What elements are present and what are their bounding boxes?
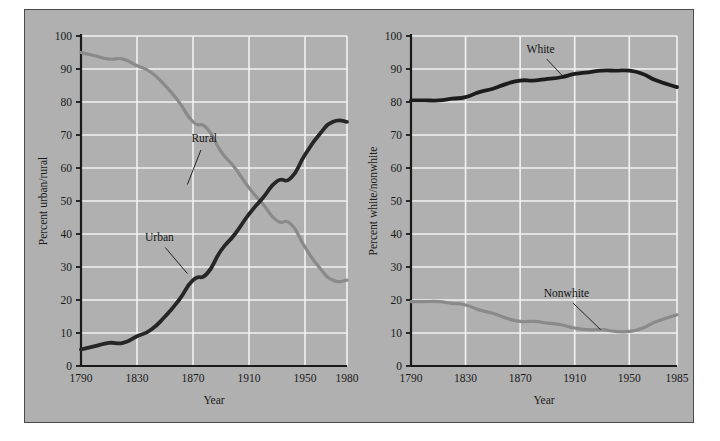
y-axis-title: Percent white/nonwhite [367,147,379,256]
y-tick-label: 10 [391,327,403,339]
x-tick-label: 1790 [400,372,423,384]
y-tick-label: 40 [61,228,73,240]
y-tick-label: 20 [391,294,403,306]
y-tick-label: 50 [391,195,403,207]
y-tick-label: 20 [61,294,73,306]
y-tick-label: 30 [61,261,73,273]
y-tick-label: 10 [61,327,73,339]
y-tick-label: 0 [396,360,402,372]
series-label-nonwhite: Nonwhite [544,287,589,299]
x-axis-title: Year [533,394,554,406]
x-tick-label: 1910 [238,372,261,384]
white-nonwhite-plot: 0102030405060708090100179018301870191019… [355,10,695,424]
x-tick-label: 1830 [126,372,149,384]
series-label-white: White [527,43,555,55]
y-tick-label: 60 [61,162,73,174]
y-tick-label: 90 [61,63,73,75]
y-axis: 0102030405060708090100 [55,30,81,372]
y-tick-label: 70 [391,129,403,141]
y-tick-label: 0 [66,360,72,372]
y-tick-label: 90 [391,63,403,75]
y-tick-label: 30 [391,261,403,273]
x-tick-label: 1950 [618,372,641,384]
x-tick-label: 1870 [509,372,532,384]
series-label-rural: Rural [191,132,217,144]
figure-canvas: 0102030405060708090100179018301870191019… [0,0,720,441]
x-tick-label: 1830 [454,372,477,384]
x-axis: 179018301870191019501985 [400,366,689,384]
y-tick-label: 80 [391,96,403,108]
y-tick-label: 40 [391,228,403,240]
chart-panel-white-nonwhite: 0102030405060708090100179018301870191019… [355,10,695,424]
x-tick-label: 1870 [182,372,205,384]
x-tick-label: 1790 [70,372,93,384]
y-tick-label: 50 [61,195,73,207]
x-axis-title: Year [203,394,224,406]
y-tick-label: 100 [385,30,403,42]
chart-panel-urban-rural: 0102030405060708090100179018301870191019… [25,10,365,424]
x-axis: 179018301870191019501980 [70,366,359,384]
x-tick-label: 1950 [294,372,317,384]
x-tick-label: 1985 [666,372,689,384]
figure-frame: 0102030405060708090100179018301870191019… [24,9,694,423]
y-tick-label: 100 [55,30,73,42]
urban-rural-plot: 0102030405060708090100179018301870191019… [25,10,365,424]
y-tick-label: 60 [391,162,403,174]
y-tick-label: 80 [61,96,73,108]
y-axis: 0102030405060708090100 [385,30,411,372]
y-axis-title: Percent urban/rural [37,157,49,245]
y-tick-label: 70 [61,129,73,141]
series-label-urban: Urban [145,231,174,243]
x-tick-label: 1910 [563,372,586,384]
